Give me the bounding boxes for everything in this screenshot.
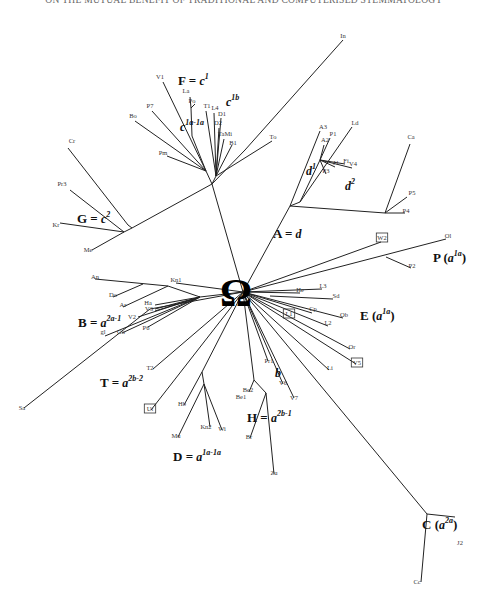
leaf-label-t1: T1: [203, 102, 210, 109]
group-label-c1b: c1b: [226, 93, 239, 109]
group-label-b: b: [275, 366, 281, 380]
tree-edge: [243, 292, 427, 514]
leaf-label-p3: P3: [323, 167, 330, 174]
group-label-c: C (a2a): [422, 516, 457, 532]
group-label-p: P (a1a): [433, 249, 466, 265]
leaf-label-ob: Ob: [340, 311, 348, 318]
tree-edge: [243, 242, 381, 292]
group-label-f: F = c1: [178, 72, 209, 88]
leaf-label-d2: D2: [214, 119, 222, 126]
leaf-label-v6: V6: [279, 379, 288, 386]
leaf-label-bo: Bo: [129, 112, 137, 119]
leaf-label-to: To: [270, 133, 277, 140]
leaf-label-he: He: [296, 286, 304, 293]
leaf-label-go: Go: [117, 328, 125, 335]
leaf-label-cc: Cc: [413, 578, 420, 585]
leaf-label-tami: TaMi: [218, 130, 232, 137]
leaf-label-an: An: [91, 273, 100, 280]
leaf-label-or: Or: [349, 343, 357, 350]
leaf-label-kn1: Kn1: [170, 276, 181, 283]
leaf-label-l3: L3: [319, 282, 326, 289]
leaf-label-zu: Zu: [270, 469, 278, 476]
root-omega-label: Ω: [220, 270, 252, 315]
tree-edge: [184, 372, 202, 405]
leaf-label-d1: D1: [218, 110, 226, 117]
tree-edge: [135, 121, 206, 171]
tree-edge: [92, 232, 124, 250]
tree-edge: [243, 289, 322, 292]
leaf-label-cp: Cp: [309, 305, 317, 312]
leaf-label-v1: V1: [156, 73, 164, 80]
leaf-label-b1: B1: [229, 139, 237, 146]
leaf-label-kr: Kr: [53, 221, 61, 228]
tree-edge: [113, 284, 143, 297]
leaf-label-ca: Ca: [407, 133, 414, 140]
tree-edge: [266, 393, 274, 474]
tree-edge: [132, 184, 212, 228]
leaf-label-v3: V3: [145, 305, 153, 312]
tree-edge: [191, 104, 195, 108]
tree-edge: [124, 228, 132, 232]
leaf-label-wi: Wi: [218, 425, 226, 432]
leaf-label-sa: Sa: [19, 404, 26, 411]
leaf-label-j1: J1: [333, 159, 339, 166]
tree-edge: [202, 372, 204, 384]
leaf-label-do: Do: [109, 291, 117, 298]
tree-edge: [245, 40, 343, 150]
leaf-label-l1: L1: [285, 310, 292, 317]
tree-edge: [254, 380, 266, 393]
tree-edge: [216, 141, 272, 176]
tree-edge: [168, 286, 200, 297]
leaf-label-po: Po: [189, 97, 196, 104]
group-label-e: E (a1a): [360, 307, 395, 323]
tree-edge: [290, 206, 385, 213]
leaf-label-cr: Cr: [69, 137, 76, 144]
tree-edge: [385, 144, 410, 213]
stemma-tree-diagram: InV1LaPoP7T1L4D1D2TaMiB1BoCrPmToA3LdP1A2…: [0, 0, 488, 610]
tree-edge: [128, 225, 132, 228]
leaf-label-p5: P5: [409, 189, 416, 196]
leaf-label-w2: W2: [377, 234, 386, 241]
leaf-label-be1: Be1: [236, 393, 246, 400]
leaf-label-ol: Ol: [445, 232, 452, 239]
group-label-b: B = a2a-1: [78, 314, 121, 330]
group-label-g: G = c2: [77, 210, 110, 226]
leaf-label-p1: P1: [330, 130, 337, 137]
leaf-label-a3: A3: [319, 123, 327, 130]
leaf-label-la: La: [183, 87, 190, 94]
leaf-label-v5: V5: [353, 359, 361, 366]
leaf-label-ld: Ld: [351, 119, 359, 126]
group-label-t: T = a2b-2: [100, 374, 143, 390]
leaf-label-p6: P6: [143, 324, 151, 331]
leaf-label-kn2: Kn2: [200, 423, 211, 430]
leaf-label-pm: Pm: [159, 149, 168, 156]
leaf-label-in: In: [340, 32, 346, 39]
leaf-label-ut: Ut: [147, 405, 154, 412]
leaf-label-v7: V7: [290, 394, 299, 401]
leaf-label-me: Me: [84, 246, 93, 253]
leaf-label-p7: P7: [147, 102, 155, 109]
leaf-label-hb: Hb: [178, 400, 186, 407]
leaf-label-p2: P2: [409, 262, 416, 269]
group-label-d2: d2: [345, 177, 355, 193]
group-label-h: H = a2b-1: [247, 409, 292, 425]
leaf-label-t2: T2: [146, 364, 153, 371]
group-label-a: A = d: [273, 226, 303, 241]
tree-edge: [270, 296, 333, 299]
tree-edge: [243, 239, 446, 292]
leaf-label-li: Li: [327, 364, 333, 371]
tree-edge: [95, 279, 168, 286]
leaf-label-a2: A2: [321, 136, 329, 143]
leaf-label-br: Br: [246, 433, 253, 440]
leaf-label-v2: V2: [128, 313, 136, 320]
leaf-label-ar: Ar: [120, 301, 128, 308]
tree-edge: [206, 171, 212, 184]
leaf-label-pr1: Pr1: [264, 357, 273, 364]
leaf-label-sd: Sd: [333, 292, 341, 299]
group-label-d1: d1: [306, 162, 316, 178]
leaf-label-be2: Be2: [243, 386, 253, 393]
tree-edge: [386, 257, 411, 268]
leaf-label-v4: V4: [349, 160, 358, 167]
group-label-d: D = a1a-1a: [173, 448, 221, 464]
leaf-label-l2: L2: [324, 319, 331, 326]
